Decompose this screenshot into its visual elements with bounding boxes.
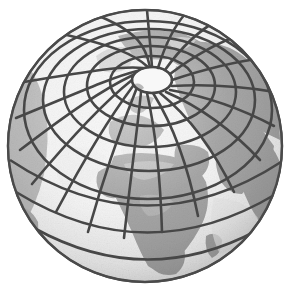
globe-figure: Orthographic globe with graticule orthog… bbox=[0, 0, 290, 286]
globe-svg bbox=[0, 0, 290, 286]
